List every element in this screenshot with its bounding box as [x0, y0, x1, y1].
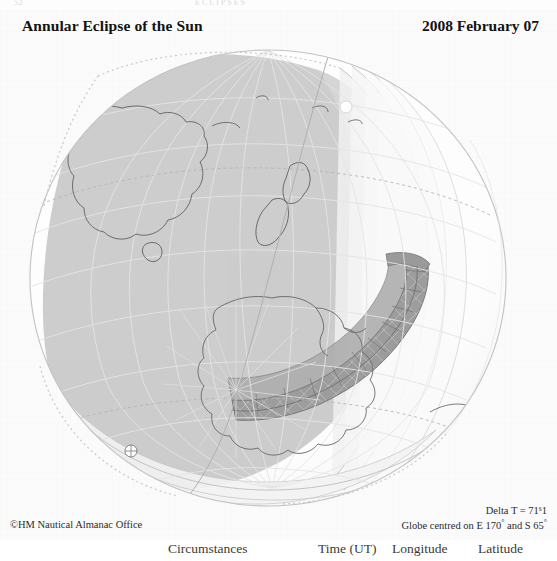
- page-running-head-text: ECLIPSES: [195, 0, 247, 7]
- table-header-longitude: Longitude: [392, 541, 448, 557]
- delta-t-label: Delta T = 71: [486, 505, 539, 516]
- globe: [30, 50, 506, 506]
- table-header-row: Circumstances Time (UT) Longitude Latitu…: [0, 541, 557, 561]
- delta-t-fraction: 1: [542, 505, 547, 516]
- delta-t-note: Delta T = 71s1: [401, 504, 547, 518]
- copyright-credit: ©HM Nautical Almanac Office: [10, 519, 142, 530]
- degree-sign-latitude: °: [544, 518, 547, 527]
- greatest-eclipse-marker: [340, 101, 352, 113]
- eclipse-page: 52 ECLIPSES: [0, 0, 557, 561]
- eclipse-globe-map: [0, 10, 557, 540]
- globe-centre-prefix: Globe centred on E 170: [401, 520, 501, 531]
- plate-title: Annular Eclipse of the Sun: [22, 17, 203, 35]
- globe-centre-mid: and S 65: [504, 520, 543, 531]
- eclipse-map-plate: Annular Eclipse of the Sun 2008 February…: [0, 10, 557, 540]
- page-folio: 52: [14, 0, 23, 7]
- globe-centre-note: Globe centred on E 170° and S 65°: [401, 518, 547, 532]
- table-header-circumstances: Circumstances: [168, 541, 247, 557]
- plate-notes: Delta T = 71s1 Globe centred on E 170° a…: [401, 504, 547, 532]
- table-header-time: Time (UT): [318, 541, 376, 557]
- circumstances-table-header-stub: Circumstances Time (UT) Longitude Latitu…: [0, 540, 557, 561]
- table-header-latitude: Latitude: [478, 541, 523, 557]
- south-pole-marker: [125, 445, 137, 457]
- page-running-header: 52 ECLIPSES: [0, 0, 557, 10]
- plate-date: 2008 February 07: [422, 17, 539, 35]
